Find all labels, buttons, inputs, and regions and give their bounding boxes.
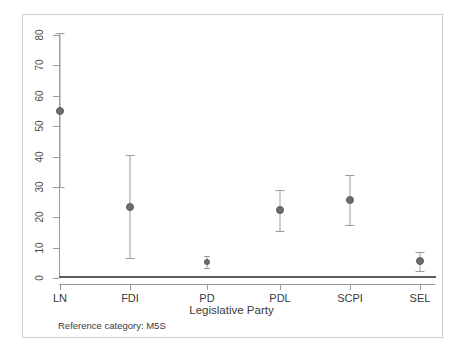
y-tick-label-20: 20 — [29, 211, 51, 223]
y-tick-label-0: 0 — [29, 272, 51, 284]
plot-area: 01020304050607080 LNFDIPDPDLSCPISEL Legi… — [0, 0, 463, 355]
data-point-ln — [56, 107, 64, 115]
x-tick-label-fdi: FDI — [121, 292, 139, 304]
y-tick-80 — [53, 35, 59, 36]
y-tick-10 — [53, 248, 59, 249]
error-bar-cap-ln-upper — [56, 33, 65, 34]
y-tick-label-30: 30 — [29, 181, 51, 193]
y-tick-label-70: 70 — [29, 59, 51, 71]
x-tick-sel — [420, 284, 421, 290]
y-tick-label-60: 60 — [29, 90, 51, 102]
data-point-scpi — [346, 196, 354, 204]
y-tick-label-text: 30 — [34, 176, 46, 198]
data-point-sel — [416, 257, 424, 265]
y-tick-label-80: 80 — [29, 29, 51, 41]
zero-reference-line — [59, 276, 436, 278]
x-tick-label-pd: PD — [199, 292, 214, 304]
x-tick-label-pdl: PDL — [269, 292, 290, 304]
x-tick-fdi — [130, 284, 131, 290]
y-tick-label-text: 0 — [34, 267, 46, 289]
y-tick-label-text: 70 — [34, 54, 46, 76]
data-point-pd — [204, 259, 210, 265]
x-axis-line — [59, 284, 435, 285]
error-bar-cap-ln-lower — [56, 187, 65, 188]
error-bar-cap-pd-lower — [204, 268, 210, 269]
data-point-fdi — [126, 203, 134, 211]
error-bar-cap-fdi-upper — [126, 155, 135, 156]
y-tick-50 — [53, 126, 59, 127]
x-tick-scpi — [350, 284, 351, 290]
x-tick-pdl — [280, 284, 281, 290]
y-tick-label-text: 60 — [34, 85, 46, 107]
y-tick-60 — [53, 96, 59, 97]
error-bar-cap-pdl-upper — [276, 190, 285, 191]
data-point-pdl — [276, 206, 284, 214]
y-tick-label-40: 40 — [29, 151, 51, 163]
x-tick-label-sel: SEL — [410, 292, 431, 304]
y-tick-label-text: 40 — [34, 146, 46, 168]
y-tick-label-text: 80 — [34, 24, 46, 46]
error-bar-cap-scpi-lower — [346, 225, 355, 226]
x-axis-title: Legislative Party — [0, 304, 463, 316]
y-tick-label-50: 50 — [29, 120, 51, 132]
y-tick-20 — [53, 217, 59, 218]
y-tick-70 — [53, 65, 59, 66]
x-tick-label-scpi: SCPI — [337, 292, 363, 304]
error-bar-cap-pd-upper — [204, 256, 210, 257]
figure-container: 01020304050607080 LNFDIPDPDLSCPISEL Legi… — [0, 0, 463, 355]
error-bar-cap-fdi-lower — [126, 258, 135, 259]
x-tick-pd — [207, 284, 208, 290]
error-bar-cap-scpi-upper — [346, 175, 355, 176]
x-tick-label-ln: LN — [53, 292, 67, 304]
y-tick-label-text: 10 — [34, 237, 46, 259]
y-tick-label-text: 50 — [34, 115, 46, 137]
error-bar-cap-sel-upper — [416, 252, 425, 253]
error-bar-cap-sel-lower — [416, 271, 425, 272]
reference-category-note: Reference category: M5S — [58, 320, 166, 331]
y-tick-0 — [53, 278, 59, 279]
error-bar-cap-pdl-lower — [276, 231, 285, 232]
y-tick-40 — [53, 157, 59, 158]
x-tick-ln — [60, 284, 61, 290]
y-tick-label-text: 20 — [34, 206, 46, 228]
y-tick-label-10: 10 — [29, 242, 51, 254]
